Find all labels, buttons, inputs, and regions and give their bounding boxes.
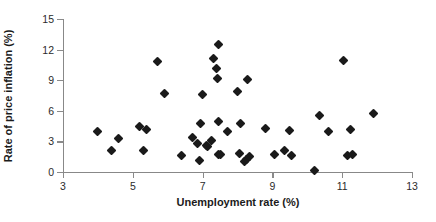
y-axis-tick-label: 15	[32, 13, 54, 25]
x-axis-tick-label: 7	[200, 180, 206, 192]
scatter-point	[196, 118, 206, 128]
scatter-point	[236, 118, 246, 128]
x-axis-tick	[133, 172, 134, 178]
y-axis-tick-label: 0	[32, 166, 54, 178]
plot-area	[63, 19, 412, 172]
y-axis-tick-label: 9	[32, 74, 54, 86]
x-axis-tick	[203, 172, 204, 178]
scatter-point	[213, 40, 223, 50]
x-axis-tick-label: 3	[60, 180, 66, 192]
scatter-point	[346, 124, 356, 134]
y-axis-tick-label: 12	[32, 44, 54, 56]
x-axis-tick	[63, 172, 64, 178]
scatter-point	[212, 64, 222, 74]
x-axis-tick-label: 11	[337, 180, 348, 192]
scatter-point	[107, 146, 117, 156]
scatter-point	[213, 116, 223, 126]
scatter-point	[339, 56, 349, 66]
x-axis-tick	[412, 172, 413, 178]
x-axis-tick	[342, 172, 343, 178]
scatter-point	[212, 74, 222, 84]
scatter-point	[323, 127, 333, 137]
scatter-point	[194, 156, 204, 166]
scatter-point	[177, 151, 187, 161]
scatter-plot-figure: Rate of price inflation (%) 03691215 357…	[0, 0, 436, 222]
scatter-point	[222, 127, 232, 137]
y-axis-title: Rate of price inflation (%)	[0, 19, 16, 172]
scatter-point	[309, 166, 319, 176]
scatter-point	[269, 149, 279, 159]
scatter-point	[159, 89, 169, 99]
scatter-point	[198, 90, 208, 100]
x-axis-tick-label: 5	[130, 180, 136, 192]
y-axis-title-text: Rate of price inflation (%)	[2, 29, 14, 162]
scatter-point	[93, 126, 103, 136]
y-axis-tick-label: 6	[32, 105, 54, 117]
x-axis-title-text: Unemployment rate (%)	[177, 196, 300, 208]
scatter-point	[233, 86, 243, 96]
scatter-point	[260, 123, 270, 133]
scatter-point	[315, 111, 325, 121]
scatter-point	[138, 146, 148, 156]
x-axis-line	[63, 172, 413, 173]
scatter-point	[285, 126, 295, 136]
scatter-point	[114, 133, 124, 143]
scatter-point	[152, 57, 162, 67]
x-axis-tick	[272, 172, 273, 178]
x-axis-title: Unemployment rate (%)	[63, 196, 413, 208]
x-axis-tick-label: 13	[406, 180, 418, 192]
scatter-point	[192, 139, 202, 149]
scatter-point	[208, 54, 218, 64]
scatter-point	[369, 108, 379, 118]
x-axis-tick-label: 9	[269, 180, 275, 192]
y-axis-tick-label: 3	[32, 135, 54, 147]
scatter-point	[243, 75, 253, 85]
